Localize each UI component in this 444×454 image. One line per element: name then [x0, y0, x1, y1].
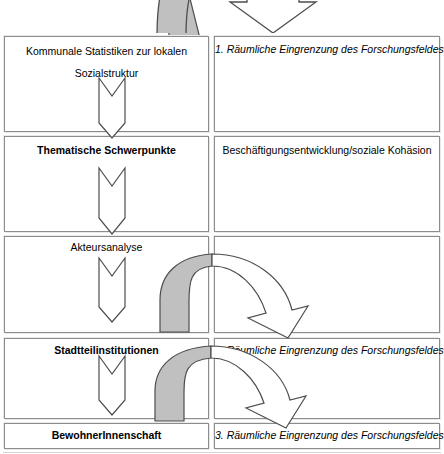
row-2-right-label: Beschäftigungsentwicklung/soziale Kohäsi…	[215, 144, 439, 157]
box-row-4-right: 2. Räumliche Eingrenzung des Forschungsf…	[214, 338, 440, 419]
box-row-3-left: Akteursanalyse	[4, 236, 209, 333]
row-4-left-label-line1: Stadtteilinstitutionen	[5, 344, 208, 357]
row-5-right-label: 3. Räumliche Eingrenzung des Forschungsf…	[215, 429, 439, 442]
row-1-left-label-line2: Sozialstruktur	[5, 67, 208, 80]
box-row-5-left: BewohnerInnenschaft	[4, 423, 209, 449]
box-row-2-right: Beschäftigungsentwicklung/soziale Kohäsi…	[214, 136, 440, 232]
row-3-left-label-line1: Akteursanalyse	[5, 241, 208, 254]
box-row-5-right: 3. Räumliche Eingrenzung des Forschungsf…	[214, 423, 440, 449]
box-row-3-right	[214, 236, 440, 333]
bottom-divider	[3, 452, 441, 453]
row-1-left-label-line1: Kommunale Statistiken zur lokalen	[5, 45, 208, 58]
box-row-2-left: Thematische Schwerpunkte	[4, 136, 209, 232]
process-flow-diagram: Kommunale Statistiken zur lokalen Sozial…	[0, 0, 444, 454]
box-row-1-right: 1. Räumliche Eingrenzung des Forschungsf…	[214, 36, 440, 132]
box-row-4-left: Stadtteilinstitutionen	[4, 338, 209, 419]
box-row-1-left: Kommunale Statistiken zur lokalen Sozial…	[4, 36, 209, 132]
row-4-right-label: 2. Räumliche Eingrenzung des Forschungsf…	[215, 344, 439, 357]
row-5-left-label-line1: BewohnerInnenschaft	[5, 429, 208, 442]
row-1-right-label: 1. Räumliche Eingrenzung des Forschungsf…	[215, 43, 439, 56]
row-2-left-label-line1: Thematische Schwerpunkte	[5, 144, 208, 157]
